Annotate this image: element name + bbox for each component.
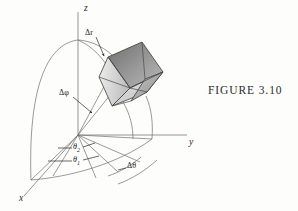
- arc-delta-theta-outer: [118, 160, 157, 184]
- meridian-phi1-lower: [146, 96, 152, 139]
- z-axis-label: z: [84, 3, 88, 13]
- delta-phi-text: Δφ: [59, 88, 69, 97]
- x-axis: [24, 135, 78, 196]
- figure-page: z y x Δr Δφ θ2 θ1 Δθ FIGURE 3.10: [0, 0, 298, 211]
- meridian-phi2-lower: [123, 102, 133, 139]
- radial-line-xy-5: [78, 135, 152, 139]
- y-axis-label: y: [189, 137, 193, 147]
- theta2-leader-right: [83, 143, 95, 147]
- axis-group: [24, 12, 187, 196]
- delta-phi-label: Δφ: [59, 88, 69, 97]
- figure-caption: FIGURE 3.10: [208, 84, 282, 96]
- theta1-subscript: 1: [77, 160, 80, 166]
- delta-phi-leader: [73, 97, 92, 113]
- spherical-coordinates-figure: [0, 0, 298, 211]
- theta2-label: θ2: [73, 142, 80, 153]
- theta1-label: θ1: [73, 155, 80, 166]
- delta-r-text: Δr: [85, 28, 93, 37]
- theta2-subscript: 2: [77, 147, 80, 153]
- delta-theta-label: Δθ: [127, 161, 136, 170]
- theta1-leader-right: [83, 156, 99, 160]
- delta-theta-text: Δθ: [127, 161, 136, 170]
- delta-r-label: Δr: [85, 28, 93, 37]
- x-axis-label: x: [19, 193, 23, 203]
- meridian-arc-outer: [31, 40, 78, 180]
- arc-delta-theta-inner: [108, 157, 141, 176]
